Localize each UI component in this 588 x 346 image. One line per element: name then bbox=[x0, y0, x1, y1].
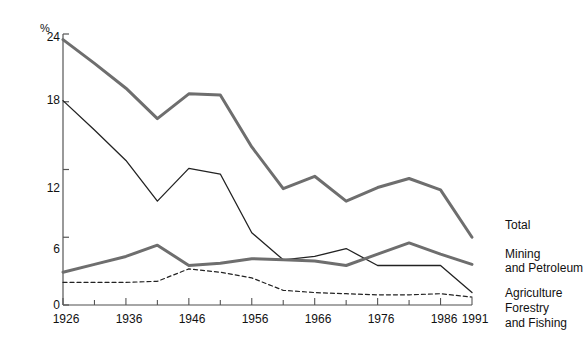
chart-canvas: Percentage of Total Gross Domestic Produ… bbox=[0, 0, 588, 346]
series-line-total bbox=[63, 40, 472, 238]
chart-series-layer bbox=[63, 40, 472, 297]
series-line-mining-and-petroleum bbox=[63, 243, 472, 272]
chart-plot-area bbox=[0, 0, 588, 346]
y-axis-ticks bbox=[63, 34, 69, 305]
series-line-agriculture-forestry-and-fishing bbox=[63, 101, 472, 293]
x-axis-ticks bbox=[63, 298, 472, 305]
series-line-agriculture-dashed bbox=[63, 269, 472, 297]
